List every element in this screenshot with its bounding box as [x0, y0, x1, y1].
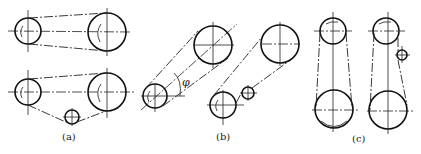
rotation-arrow-icon — [98, 84, 101, 102]
caption-a: (a) — [62, 131, 76, 142]
belt-slack-side — [77, 111, 106, 122]
belt-slack-side — [29, 44, 106, 51]
belt-drive-figure: (a) φ — [0, 0, 421, 154]
center-line-horizontal — [8, 31, 130, 32]
rotation-arrow-icon — [216, 100, 218, 111]
rotation-arrow-icon — [21, 87, 23, 98]
panel-c-vertical-belt — [312, 12, 358, 132]
panel-c-belt-with-idler — [367, 12, 414, 134]
angle-arc — [174, 73, 180, 96]
belt-lower-side — [163, 58, 228, 106]
angle-phi-label: φ — [182, 76, 190, 89]
panel-a-open-belt — [8, 8, 130, 56]
belt-lower-side — [252, 61, 289, 88]
rotation-arrow-icon — [379, 22, 391, 24]
belt-upper-side — [146, 31, 198, 88]
caption-c: (c) — [352, 133, 366, 144]
panel-c: (c) — [312, 12, 414, 144]
belt-slack-side — [28, 105, 68, 123]
rotation-arrow-icon — [148, 91, 150, 102]
rotation-arrow-icon — [326, 22, 338, 24]
large-pulley-icon — [315, 90, 353, 128]
panel-b-belt-with-idler — [207, 22, 300, 125]
belt-lower-side — [236, 90, 243, 103]
panel-b: φ (b) — [141, 22, 300, 142]
panel-a: (a) — [8, 8, 136, 142]
caption-b: (b) — [216, 131, 230, 142]
panel-a-belt-with-idler — [8, 68, 136, 126]
rotation-arrow-icon — [98, 24, 101, 42]
